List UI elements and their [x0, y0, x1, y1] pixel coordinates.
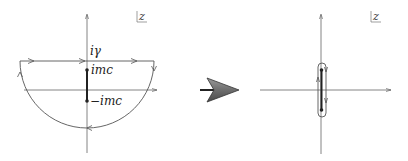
plane-label-z: z	[138, 10, 145, 23]
left-panel: iγ imc −imc z	[18, 10, 158, 153]
contour-arrow-icon	[18, 72, 23, 77]
label-minus-imc: −imc	[90, 94, 122, 108]
label-imc: imc	[91, 63, 113, 77]
plane-label-box-left: z	[137, 10, 147, 23]
branch-point-upper	[320, 68, 324, 72]
plane-label-z: z	[372, 10, 379, 23]
diagram-canvas: iγ imc −imc z z	[0, 0, 408, 161]
branch-point-lower	[85, 99, 89, 103]
branch-point-upper	[85, 68, 89, 72]
plane-label-box-right: z	[371, 10, 381, 23]
branch-point-lower	[320, 108, 324, 112]
transform-arrow-icon	[200, 78, 239, 102]
right-panel: z	[260, 10, 391, 154]
label-i-gamma: iγ	[90, 44, 102, 58]
